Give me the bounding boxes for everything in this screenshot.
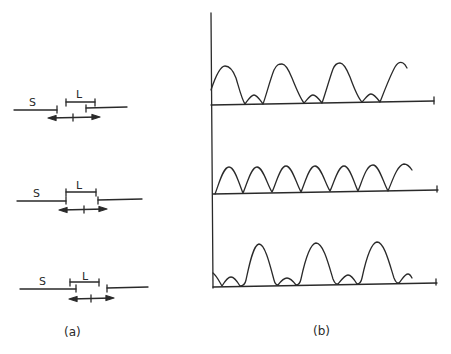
baseline-axis xyxy=(213,190,438,194)
y-axis xyxy=(211,13,213,288)
config-1: S L xyxy=(14,88,127,121)
baseline-axis xyxy=(213,283,437,287)
caption-b: (b) xyxy=(313,324,330,338)
arrow-right-icon xyxy=(99,207,107,212)
s-label: S xyxy=(33,187,40,200)
trace-1 xyxy=(211,62,434,105)
double-arrow-shaft xyxy=(50,117,98,118)
arrow-left-icon xyxy=(48,116,56,121)
arrow-right-icon xyxy=(92,115,100,120)
panel-b: (b) xyxy=(211,13,438,338)
l-label: L xyxy=(76,179,83,192)
intensity-curve xyxy=(215,164,412,194)
diagram-canvas: S L S L xyxy=(0,0,451,354)
l-label: L xyxy=(82,270,89,283)
right-segment xyxy=(98,199,142,200)
config-3: S L xyxy=(20,270,148,302)
arrow-left-icon xyxy=(59,208,67,213)
trace-2 xyxy=(213,164,438,194)
caption-a: (a) xyxy=(64,325,81,339)
arrow-right-icon xyxy=(106,296,114,301)
arrow-left-icon xyxy=(69,297,77,302)
right-segment xyxy=(86,107,127,108)
figure: S L S L xyxy=(0,0,451,354)
intensity-curve xyxy=(211,62,407,104)
s-label: S xyxy=(29,96,36,109)
l-label: L xyxy=(76,88,83,101)
right-segment xyxy=(107,287,148,288)
trace-3 xyxy=(213,242,437,287)
config-2: S L xyxy=(17,179,142,213)
panel-a: S L S L xyxy=(14,88,148,339)
intensity-curve xyxy=(213,242,412,286)
s-label: S xyxy=(39,275,46,288)
